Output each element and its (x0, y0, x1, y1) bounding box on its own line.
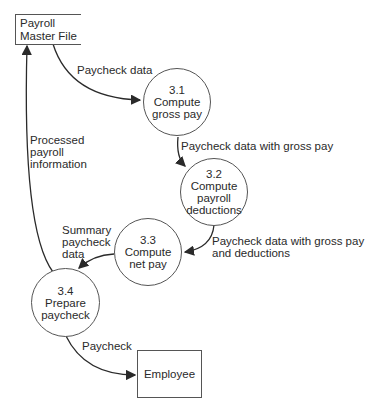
flow-label-paycheck-data: Paycheck data (77, 64, 152, 76)
process-label: paycheck (41, 309, 90, 321)
employee-label: Employee (144, 368, 195, 381)
arrow-deductions (185, 225, 214, 252)
process-label: deductions (186, 204, 242, 216)
process-label: Compute (154, 96, 201, 108)
flow-label-summary-1: Summary (62, 224, 111, 236)
process-label: gross pay (152, 108, 202, 120)
process-id: 3.3 (140, 234, 156, 246)
flow-label-gross-pay: Paycheck data with gross pay (181, 140, 333, 152)
payroll-master-file-line2: Master File (20, 30, 81, 43)
process-3-2: 3.2 Compute payroll deductions (180, 158, 248, 226)
process-label: Compute (191, 180, 238, 192)
flow-label-deductions-1: Paycheck data with gross pay (212, 235, 364, 247)
process-label: net pay (129, 258, 167, 270)
process-3-1: 3.1 Compute gross pay (143, 68, 211, 136)
flow-label-paycheck: Paycheck (82, 340, 132, 352)
process-label: payroll (197, 192, 231, 204)
flow-label-summary-2: paycheck (62, 236, 111, 248)
flow-label-processed-3: information (30, 158, 87, 170)
process-3-3: 3.3 Compute net pay (114, 218, 182, 286)
flow-label-processed-1: Processed (30, 134, 84, 146)
payroll-master-file-line1: Payroll (20, 17, 81, 30)
process-id: 3.4 (58, 285, 74, 297)
flow-label-deductions-2: and deductions (212, 247, 290, 259)
process-id: 3.1 (169, 84, 185, 96)
flow-label-processed-2: payroll (30, 146, 64, 158)
payroll-master-file: Payroll Master File (15, 14, 81, 45)
employee-entity: Employee (137, 350, 202, 398)
process-label: Compute (125, 246, 172, 258)
process-label: Prepare (45, 297, 86, 309)
process-id: 3.2 (206, 168, 222, 180)
flow-label-summary-3: data (62, 248, 84, 260)
process-3-4: 3.4 Prepare paycheck (31, 268, 100, 337)
